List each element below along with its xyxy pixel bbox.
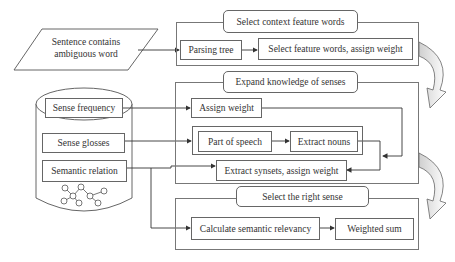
- panel-title-expand-knowledge: Expand knowledge of senses: [223, 71, 358, 93]
- database-item-sense-glosses: Sense glosses: [42, 133, 125, 153]
- input-sentence-label: Sentence contains ambiguous word: [30, 36, 142, 60]
- step-weighted-sum: Weighted sum: [335, 218, 414, 240]
- step-select-feature-words: Select feature words, assign weight: [258, 38, 413, 60]
- database-item-sense-frequency: Sense frequency: [45, 98, 123, 118]
- step-extract-nouns: Extract nouns: [290, 131, 358, 152]
- curved-arrow-icon: [419, 42, 446, 108]
- database-item-semantic-relation: Semantic relation: [42, 160, 127, 182]
- step-parsing-tree: Parsing tree: [180, 40, 242, 60]
- step-extract-synsets: Extract synsets, assign weight: [216, 160, 347, 181]
- input-line-2: ambiguous word: [30, 48, 142, 60]
- input-line-1: Sentence contains: [30, 36, 142, 48]
- step-assign-weight: Assign weight: [191, 98, 262, 118]
- curved-arrow-icon: [419, 153, 446, 219]
- step-calculate-relevancy: Calculate semantic relevancy: [191, 217, 320, 240]
- panel-title-select-sense: Select the right sense: [236, 186, 369, 207]
- panel-title-context-features: Select context feature words: [223, 10, 358, 33]
- step-part-of-speech: Part of speech: [198, 131, 272, 152]
